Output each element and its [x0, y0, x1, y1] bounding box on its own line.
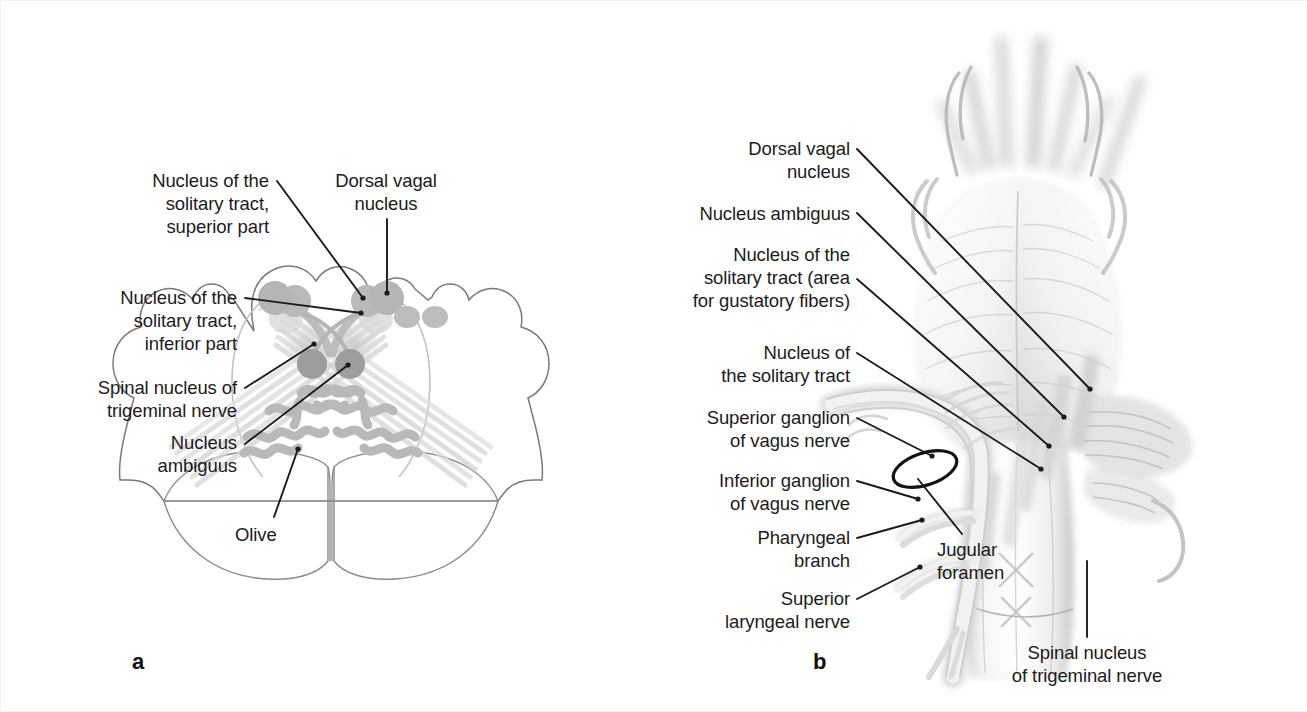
leader-inferior-ganglion: [857, 481, 918, 499]
label-nucleus-ambiguus: Nucleus ambiguus: [97, 431, 237, 477]
label-dorsal-vagal-nucleus: Dorsal vagal nucleus: [301, 169, 471, 215]
label-nucleus-solitary-tract-b: Nucleus of the solitary tract: [649, 341, 850, 387]
label-nucleus-ambiguus-b: Nucleus ambiguus: [618, 202, 850, 225]
panel-letter-b: b: [813, 649, 826, 675]
label-nucleus-solitary-tract-gustatory: Nucleus of the solitary tract (area for …: [605, 243, 850, 312]
label-superior-laryngeal-nerve: Superior laryngeal nerve: [654, 587, 850, 633]
leader-olive: [274, 449, 298, 517]
label-nucleus-solitary-tract-inferior: Nucleus of the solitary tract, inferior …: [57, 286, 237, 355]
leader-pharyngeal-branch: [857, 520, 922, 538]
anatomy-figure: Nucleus of the solitary tract, superior …: [0, 0, 1307, 712]
leader-superior-ganglion: [857, 418, 932, 456]
panel-b-dorsal-brainstem-view: Dorsal vagal nucleus Nucleus ambiguus Nu…: [641, 1, 1307, 712]
label-spinal-nucleus-trigeminal-nerve: Spinal nucleus of trigeminal nerve: [33, 376, 237, 422]
leader-spinal-trigeminal: [245, 344, 314, 388]
label-dorsal-vagal-nucleus-b: Dorsal vagal nucleus: [638, 137, 850, 183]
label-inferior-ganglion-vagus-nerve: Inferior ganglion of vagus nerve: [649, 469, 850, 515]
panel-letter-a: a: [132, 649, 144, 675]
leader-solitary-gustatory-b: [857, 279, 1049, 446]
leader-arrowheads: [295, 290, 389, 451]
label-pharyngeal-branch: Pharyngeal branch: [691, 526, 850, 572]
label-spinal-nucleus-trigeminal-nerve-b: Spinal nucleus of trigeminal nerve: [977, 641, 1197, 687]
leader-nucleus-solitary-inferior: [245, 298, 361, 313]
panel-a-leader-lines: [1, 1, 661, 712]
label-nucleus-solitary-tract-superior: Nucleus of the solitary tract, superior …: [89, 169, 269, 238]
leader-solitary-tract-b: [857, 353, 1041, 469]
panel-a-medulla-cross-section: Nucleus of the solitary tract, superior …: [1, 1, 661, 712]
label-superior-ganglion-vagus-nerve: Superior ganglion of vagus nerve: [645, 406, 850, 452]
label-olive: Olive: [235, 523, 325, 546]
leader-superior-laryngeal-nerve: [857, 567, 920, 599]
leader-nucleus-ambiguus-b: [857, 213, 1064, 417]
leader-nucleus-ambiguus: [245, 365, 348, 444]
label-jugular-foramen: Jugular foramen: [937, 538, 1057, 584]
leader-jugular-foramen: [918, 479, 962, 534]
leader-dorsal-vagal-nucleus-b: [857, 149, 1090, 389]
